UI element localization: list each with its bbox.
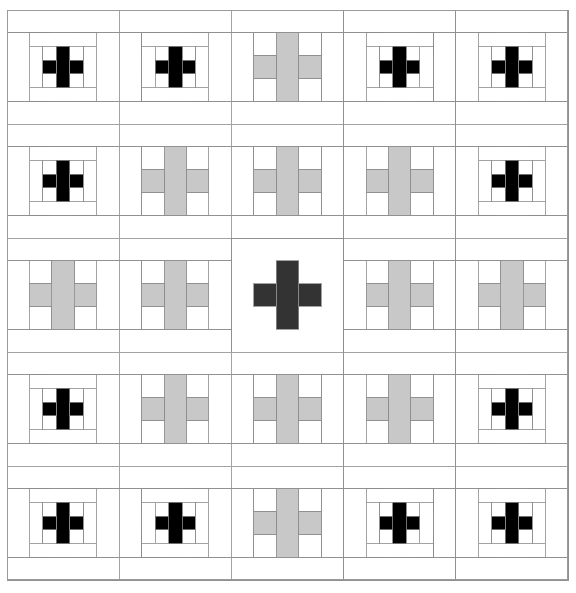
outer-block-r4c1-band-left [119, 489, 141, 557]
black-cross-r0c3-arm-right [406, 60, 419, 74]
black-cross-r0c1-vbar [169, 46, 182, 87]
inner-block-r1c0-cell-bl [43, 188, 56, 202]
inner-block-r0c4-band-top [478, 33, 545, 47]
inner-block-r0c3-cell-tl [380, 46, 393, 60]
black-cross-r3c0-arm-left [43, 402, 56, 416]
black-cross-r1c0-arm-right [70, 174, 83, 188]
gray-block-r4c2-band-bottom [231, 557, 343, 580]
black-cross-r4c1-vbar [169, 502, 182, 543]
black-cross-r4c4-arm-right [519, 516, 532, 530]
inner-block-r4c0-cell-tr [70, 502, 83, 516]
gray-cross-r2c4-arm-right [523, 284, 545, 307]
gray-cross-r4c2-arm-right [299, 512, 321, 535]
inner-block-r1c4-cell-tl [492, 160, 505, 174]
gray-block-r3c1-band-bottom [119, 443, 231, 466]
black-cross-r3c4-arm-left [492, 402, 505, 416]
gray-block-r0c2-cell-tr [299, 33, 321, 56]
gray-block-r2c0-cell-tr [74, 261, 96, 284]
outer-block-r0c3-band-bottom [344, 101, 456, 124]
outer-block-r3c4-band-right [546, 375, 568, 443]
gray-cross-r3c3-arm-left [366, 398, 388, 421]
black-cross-r0c1-arm-left [155, 60, 168, 74]
gray-block-r3c3-band-bottom [344, 443, 456, 466]
gray-cross-r2c0-arm-right [74, 284, 96, 307]
outer-block-r1c4-band-right [546, 147, 568, 215]
inner-block-r4c4-band-top [478, 489, 545, 503]
inner-block-r4c4-cell-tl [492, 502, 505, 516]
outer-block-r1c0-band-left [7, 147, 29, 215]
gray-block-r4c2-band-left [231, 489, 253, 557]
black-cross-r4c0-arm-left [43, 516, 56, 530]
gray-block-r2c0-cell-bl [29, 306, 51, 329]
gray-block-r2c3-band-top [344, 238, 456, 261]
gray-block-r1c3-cell-tl [366, 147, 388, 170]
inner-block-r1c4-band-right [532, 160, 545, 201]
gray-block-r3c2-band-bottom [231, 443, 343, 466]
gray-block-r3c2-cell-tr [299, 375, 321, 398]
black-cross-r4c1-arm-right [182, 516, 195, 530]
inner-block-r3c4-band-bottom [478, 430, 545, 444]
gray-block-r1c3-band-bottom [344, 215, 456, 238]
gray-block-r4c2-band-right [321, 489, 343, 557]
inner-block-r0c0-cell-tl [43, 46, 56, 60]
black-cross-r0c3-vbar [393, 46, 406, 87]
inner-block-r0c1-cell-tl [155, 46, 168, 60]
outer-block-r0c1-band-bottom [119, 101, 231, 124]
inner-block-r3c0-cell-tl [43, 388, 56, 402]
inner-block-r4c1-band-top [142, 489, 209, 503]
gray-block-r1c2-band-top [231, 124, 343, 147]
outer-block-r1c0-band-top [7, 124, 119, 147]
inner-block-r3c0-cell-br [70, 416, 83, 430]
inner-block-r1c0-band-bottom [29, 202, 96, 216]
inner-block-r0c4-band-left [478, 46, 491, 87]
gray-block-r3c1-cell-tr [187, 375, 209, 398]
gray-block-r1c1-band-top [119, 124, 231, 147]
inner-block-r0c0-cell-tr [70, 46, 83, 60]
inner-block-r4c3-cell-tr [406, 502, 419, 516]
gray-block-r4c2-cell-tr [299, 489, 321, 512]
inner-block-r1c4-cell-tr [519, 160, 532, 174]
gray-block-r2c3-band-bottom [344, 329, 456, 352]
inner-block-r1c4-band-bottom [478, 202, 545, 216]
inner-block-r1c0-band-left [29, 160, 42, 201]
gray-block-r1c3-cell-bl [366, 192, 388, 215]
gray-cross-r1c2-arm-left [254, 170, 276, 193]
outer-block-r1c4-band-left [456, 147, 478, 215]
inner-block-r4c3-band-right [420, 502, 433, 543]
outer-block-r4c0-band-bottom [7, 557, 119, 580]
inner-block-r3c0-band-bottom [29, 430, 96, 444]
inner-block-r4c4-cell-tr [519, 502, 532, 516]
gray-cross-r1c3-arm-right [411, 170, 433, 193]
gray-block-r1c2-band-right [321, 147, 343, 215]
inner-block-r3c4-cell-tr [519, 388, 532, 402]
gray-block-r4c2-cell-bl [254, 534, 276, 557]
outer-block-r3c4-band-bottom [456, 443, 568, 466]
gray-block-r1c3-band-left [344, 147, 366, 215]
black-cross-r0c1-arm-right [182, 60, 195, 74]
gray-block-r0c2-cell-br [299, 78, 321, 101]
gray-block-r3c1-band-top [119, 352, 231, 375]
black-cross-r3c4-arm-right [519, 402, 532, 416]
inner-block-r4c0-cell-bl [43, 530, 56, 544]
gray-cross-r2c3-arm-left [366, 284, 388, 307]
gray-block-r3c2-cell-tl [254, 375, 276, 398]
gray-block-r3c1-band-right [209, 375, 231, 443]
inner-block-r4c1-band-right [195, 502, 208, 543]
quilt-pattern-svg [0, 0, 576, 593]
outer-block-r4c4-band-top [456, 466, 568, 489]
outer-block-r3c0-band-right [97, 375, 119, 443]
outer-block-r0c0-band-right [97, 33, 119, 101]
outer-block-r4c0-band-right [97, 489, 119, 557]
outer-block-r0c0-band-bottom [7, 101, 119, 124]
pattern-canvas [0, 0, 576, 593]
gray-cross-r3c1-arm-left [142, 398, 164, 421]
gray-block-r4c2-band-top [231, 466, 343, 489]
gray-block-r0c2-band-bottom [231, 101, 343, 124]
outer-block-r0c4-band-bottom [456, 101, 568, 124]
gray-cross-r1c1-arm-left [142, 170, 164, 193]
gray-block-r3c2-cell-br [299, 420, 321, 443]
gray-block-r2c3-cell-tl [366, 261, 388, 284]
center-dark-cross-arm-left [254, 284, 276, 307]
gray-block-r3c3-cell-tr [411, 375, 433, 398]
outer-block-r0c0-band-top [7, 10, 119, 33]
